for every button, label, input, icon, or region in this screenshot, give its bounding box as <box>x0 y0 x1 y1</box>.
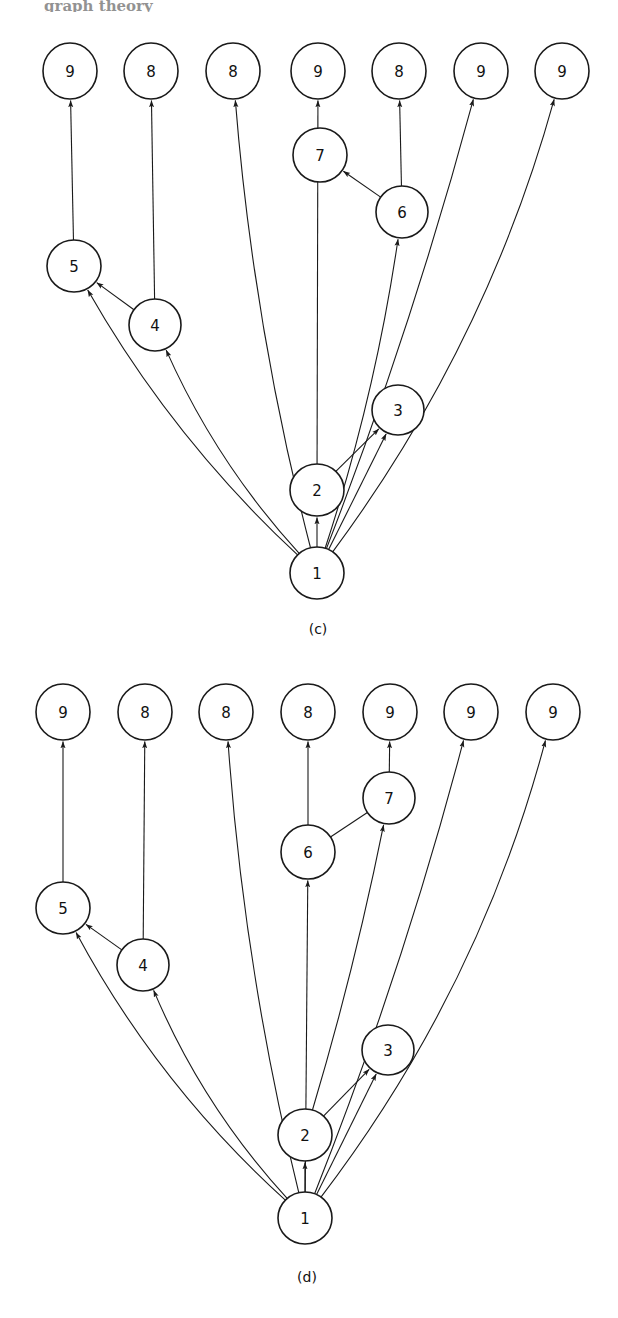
node-label: 8 <box>303 704 313 722</box>
edge-c1-to-c4 <box>166 350 299 553</box>
node-label: 4 <box>138 957 148 975</box>
node-label: 1 <box>300 1210 310 1228</box>
node-label: 8 <box>228 63 238 81</box>
edge-c6-to-c12 <box>400 100 402 186</box>
edge-d6-to-d7 <box>330 812 367 837</box>
node-label: 2 <box>312 482 322 500</box>
node-d13[interactable]: 9 <box>444 684 498 740</box>
node-c3[interactable]: 3 <box>372 385 424 435</box>
edge-c1-to-c14 <box>333 99 554 551</box>
edge-c4-to-c9 <box>151 101 154 300</box>
node-c2[interactable]: 2 <box>290 464 344 516</box>
node-c12[interactable]: 8 <box>372 43 426 99</box>
node-label: 5 <box>58 900 68 918</box>
node-label: 4 <box>150 317 160 335</box>
edge-d4-to-d5 <box>86 924 122 950</box>
node-d3[interactable]: 3 <box>362 1025 414 1075</box>
node-d4[interactable]: 4 <box>117 939 169 991</box>
graph-diagrams-figure: 1234567988989912345679888999 (c)(d) <box>0 0 618 1318</box>
node-c11[interactable]: 9 <box>291 43 345 99</box>
node-c1[interactable]: 1 <box>290 547 344 599</box>
node-d5[interactable]: 5 <box>36 882 90 934</box>
node-c9[interactable]: 8 <box>124 43 178 99</box>
edge-c4-to-c5 <box>97 283 134 310</box>
node-label: 9 <box>466 704 476 722</box>
edge-d2-to-d3 <box>324 1069 370 1116</box>
node-label: 8 <box>221 704 231 722</box>
node-d7[interactable]: 7 <box>363 772 415 824</box>
edge-d4-to-d9 <box>143 742 145 940</box>
panel-caption-d: (d) <box>297 1269 317 1285</box>
node-c10[interactable]: 8 <box>206 43 260 99</box>
node-d12[interactable]: 9 <box>363 684 417 740</box>
nodes-layer: 1234567988989912345679888999 <box>36 43 589 1244</box>
node-label: 9 <box>548 704 558 722</box>
panel-caption-c: (c) <box>309 621 328 637</box>
edge-d1-to-d14 <box>321 740 545 1197</box>
node-label: 7 <box>384 790 394 808</box>
node-d1[interactable]: 1 <box>278 1192 332 1244</box>
node-label: 9 <box>58 704 68 722</box>
node-label: 5 <box>69 258 79 276</box>
edge-c5-to-c8 <box>71 100 74 240</box>
node-label: 8 <box>140 704 150 722</box>
node-label: 7 <box>315 147 325 165</box>
edge-d1-to-d4 <box>154 990 287 1198</box>
node-label: 3 <box>393 402 403 420</box>
node-d14[interactable]: 9 <box>526 684 580 740</box>
node-c8[interactable]: 9 <box>43 43 97 99</box>
edges-layer <box>63 99 554 1200</box>
node-d6[interactable]: 6 <box>281 825 335 879</box>
node-c13[interactable]: 9 <box>454 43 508 99</box>
node-c7[interactable]: 7 <box>293 128 347 182</box>
node-label: 9 <box>385 704 395 722</box>
node-d9[interactable]: 8 <box>118 684 172 740</box>
node-c5[interactable]: 5 <box>47 240 101 292</box>
node-label: 9 <box>557 63 567 81</box>
node-d10[interactable]: 8 <box>199 684 253 740</box>
node-d2[interactable]: 2 <box>278 1109 332 1161</box>
node-label: 6 <box>397 204 407 222</box>
node-label: 9 <box>313 63 323 81</box>
node-c6[interactable]: 6 <box>376 186 428 238</box>
node-label: 3 <box>383 1042 393 1060</box>
node-label: 1 <box>312 565 322 583</box>
edge-c6-to-c7 <box>343 171 380 197</box>
node-d11[interactable]: 8 <box>281 684 335 740</box>
node-d8[interactable]: 9 <box>36 684 90 740</box>
node-label: 2 <box>300 1127 310 1145</box>
node-label: 8 <box>146 63 156 81</box>
figure-page: graph theory 123456798898991234567988899… <box>0 0 618 1318</box>
node-label: 9 <box>65 63 75 81</box>
cut-off-header-text: graph theory <box>44 0 344 12</box>
edge-c1-to-c13 <box>326 99 473 548</box>
node-label: 9 <box>476 63 486 81</box>
node-label: 6 <box>303 844 313 862</box>
node-c14[interactable]: 9 <box>535 43 589 99</box>
node-label: 8 <box>394 63 404 81</box>
node-c4[interactable]: 4 <box>129 299 181 351</box>
